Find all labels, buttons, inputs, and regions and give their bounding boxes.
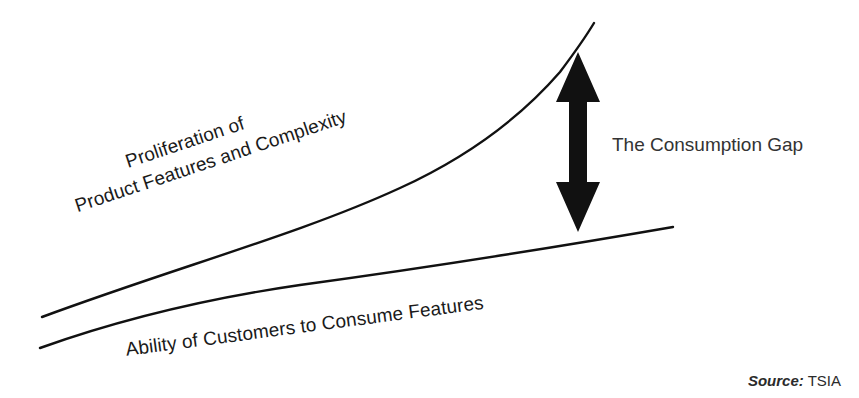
consumption-gap-label: The Consumption Gap bbox=[612, 134, 803, 156]
consumption-gap-diagram: Proliferation of Product Features and Co… bbox=[0, 0, 859, 398]
source-prefix: Source: bbox=[748, 372, 804, 389]
source-organization: TSIA bbox=[808, 372, 841, 389]
source-attribution: Source: TSIA bbox=[748, 372, 841, 389]
arrow-shaft bbox=[569, 95, 587, 190]
